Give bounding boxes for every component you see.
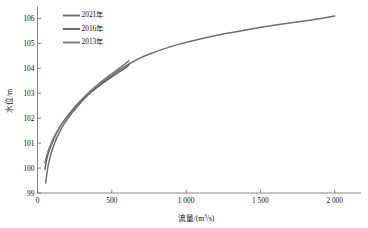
y-tick-label: 106: [23, 14, 34, 23]
y-tick-labels: 99100101102103104105106: [23, 14, 34, 198]
y-tick-label: 105: [23, 39, 34, 48]
x-tick-label: 500: [106, 196, 117, 205]
x-tick-label: 2 000: [326, 196, 343, 205]
y-tick-label: 104: [23, 64, 34, 73]
plot-area: 99100101102103104105106 05001 0001 5002 …: [0, 0, 368, 228]
y-tick-label: 100: [23, 164, 34, 173]
legend-label: 2013年: [82, 37, 105, 46]
y-tick-label: 102: [23, 114, 34, 123]
x-axis-title: 流量/(m3/s): [178, 213, 215, 223]
x-tick-label: 0: [36, 196, 40, 205]
curve-2016年: [45, 63, 130, 169]
x-tick-label: 1 000: [178, 196, 195, 205]
chart-legend: 2021年2016年2013年: [63, 10, 104, 46]
x-tick-label: 1 500: [252, 196, 269, 205]
legend-label: 2016年: [82, 24, 105, 33]
rating-curve-chart: 99100101102103104105106 05001 0001 5002 …: [0, 0, 368, 228]
y-axis-title: 水位/m: [4, 89, 14, 113]
legend-label: 2021年: [82, 10, 105, 19]
x-tick-labels: 05001 0001 5002 000: [36, 196, 344, 205]
y-tick-label: 101: [23, 139, 34, 148]
curve-2013年: [45, 61, 129, 163]
y-tick-label: 99: [27, 189, 35, 198]
y-tick-label: 103: [23, 89, 34, 98]
axes: [38, 7, 362, 194]
